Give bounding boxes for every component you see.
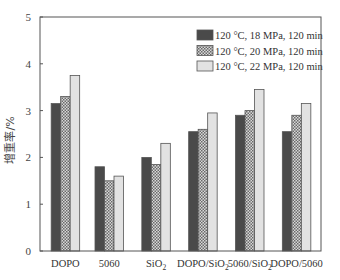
legend: 120 °C, 18 MPa, 120 min120 °C, 20 MPa, 1… xyxy=(197,30,323,72)
legend-swatch xyxy=(197,30,213,40)
bar xyxy=(142,157,152,251)
bar xyxy=(236,115,246,251)
bars xyxy=(51,76,311,252)
y-axis-label: 增重率/% xyxy=(3,116,17,163)
y-tick-label: 2 xyxy=(26,151,32,163)
y-tick-label: 3 xyxy=(26,105,32,117)
bar xyxy=(282,132,292,251)
bar xyxy=(51,104,61,251)
bar xyxy=(255,90,265,251)
x-category-label: DOPO xyxy=(51,258,80,269)
x-category-label: DOPO/SiO2 xyxy=(177,258,229,272)
legend-label: 120 °C, 22 MPa, 120 min xyxy=(215,61,323,72)
legend-swatch xyxy=(197,46,213,56)
x-category-label: 5060/SiO2 xyxy=(228,258,272,272)
bar xyxy=(301,104,311,251)
y-axis-title: 增重率/% xyxy=(3,116,17,163)
legend-label: 120 °C, 20 MPa, 120 min xyxy=(215,46,323,57)
bar xyxy=(245,111,255,251)
bar xyxy=(208,113,218,251)
bar xyxy=(95,167,105,251)
bar xyxy=(151,164,161,251)
y-tick-label: 1 xyxy=(26,198,32,210)
y-tick-label: 4 xyxy=(26,58,32,70)
x-category-label: 5060 xyxy=(99,258,120,269)
y-tick-label: 0 xyxy=(26,245,32,257)
legend-label: 120 °C, 18 MPa, 120 min xyxy=(215,30,323,41)
bar xyxy=(70,76,80,252)
bar xyxy=(292,115,302,251)
bar xyxy=(61,97,71,251)
x-category-label: SiO2 xyxy=(146,258,166,272)
y-tick-label: 5 xyxy=(26,11,32,23)
bar xyxy=(161,143,171,251)
bar xyxy=(114,176,124,251)
bar xyxy=(189,132,199,251)
bar xyxy=(105,181,115,251)
legend-swatch xyxy=(197,61,213,71)
x-axis-categories: DOPO5060SiO2DOPO/SiO25060/SiO2DOPO/5060 xyxy=(51,258,323,272)
x-category-label: DOPO/5060 xyxy=(270,258,323,269)
bar-chart: 增重率/% 012345 DOPO5060SiO2DOPO/SiO25060/S… xyxy=(0,0,340,280)
bar xyxy=(198,129,208,251)
